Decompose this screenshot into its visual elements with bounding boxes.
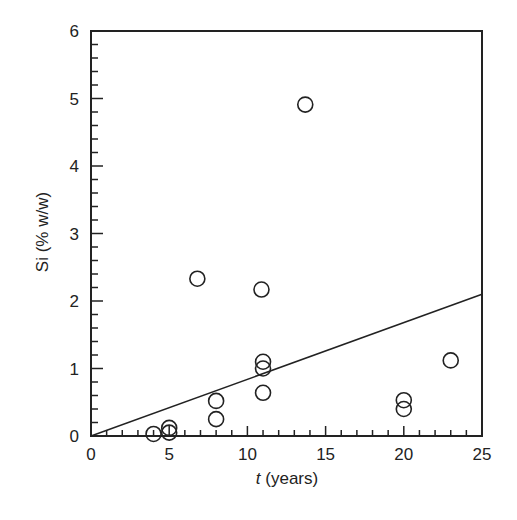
y-tick-labels: 0123456 [70, 22, 79, 446]
fit-line [91, 294, 482, 436]
y-tick-label: 6 [70, 22, 79, 41]
y-tick-label: 3 [70, 225, 79, 244]
x-tick-label: 5 [164, 445, 173, 464]
data-markers [146, 97, 458, 441]
plot-frame [91, 31, 482, 436]
data-point-marker [146, 426, 161, 441]
y-tick-label: 0 [70, 427, 79, 446]
data-point-marker [256, 361, 271, 376]
x-axis-label: t (years) [256, 469, 318, 488]
data-point-marker [209, 393, 224, 408]
y-tick-label: 5 [70, 90, 79, 109]
x-tick-label: 10 [238, 445, 257, 464]
minor-ticks [91, 45, 466, 437]
y-axis-label: Si (% w/w) [33, 192, 52, 272]
x-tick-label: 20 [394, 445, 413, 464]
data-point-marker [209, 412, 224, 427]
major-ticks [91, 99, 404, 437]
data-point-marker [396, 402, 411, 417]
data-point-marker [254, 282, 269, 297]
data-point-marker [443, 353, 458, 368]
y-tick-label: 1 [70, 360, 79, 379]
x-axis-label-unit: (years) [261, 469, 319, 488]
axes-box [91, 31, 482, 436]
data-point-marker [256, 385, 271, 400]
data-point-marker [298, 97, 313, 112]
x-tick-label: 15 [316, 445, 335, 464]
data-point-marker [190, 271, 205, 286]
x-tick-label: 0 [86, 445, 95, 464]
x-tick-label: 25 [473, 445, 492, 464]
x-tick-labels: 0510152025 [86, 445, 491, 464]
y-tick-label: 2 [70, 292, 79, 311]
trend-line [91, 294, 482, 436]
data-point-marker [162, 420, 177, 435]
scatter-chart: 0510152025 0123456 t (years) Si (% w/w) [0, 0, 517, 520]
y-tick-label: 4 [70, 157, 79, 176]
